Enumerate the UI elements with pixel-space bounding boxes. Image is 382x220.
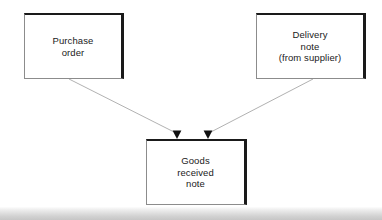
node-purchase-order[interactable]: Purchase order: [24, 13, 124, 79]
connector-line: [69, 79, 176, 133]
connector-purchase-order-to-goods-received-note: [69, 79, 181, 139]
connector-line: [209, 79, 313, 133]
arrowhead-icon: [173, 131, 182, 140]
node-delivery-note[interactable]: Delivery note (from supplier): [256, 13, 366, 79]
arrowhead-icon: [204, 131, 213, 140]
page-edge-strip: [0, 207, 382, 220]
node-delivery-note-label: Delivery note (from supplier): [279, 29, 342, 64]
node-purchase-order-label: Purchase order: [53, 35, 94, 58]
node-goods-received-note[interactable]: Goods received note: [146, 139, 247, 205]
node-goods-received-note-label: Goods received note: [177, 155, 214, 190]
connector-delivery-note-to-goods-received-note: [204, 79, 313, 139]
diagram-canvas: Purchase order Delivery note (from suppl…: [0, 0, 382, 220]
